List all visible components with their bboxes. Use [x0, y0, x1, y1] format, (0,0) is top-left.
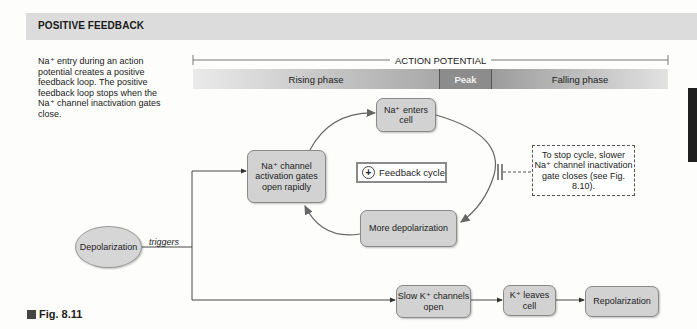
phase-peak: Peak	[439, 69, 492, 89]
stop-cycle-note: To stop cycle, slower Na⁺ channel inacti…	[532, 145, 635, 196]
node-slow-k-channels: Slow K⁺ channels open	[396, 285, 471, 318]
feedback-cycle-label: + Feedback cycle	[356, 162, 447, 183]
node-na-enters-cell: Na⁺ enters cell	[376, 98, 436, 132]
plus-circle-icon: +	[362, 166, 375, 179]
edge-label-triggers: triggers	[149, 237, 179, 247]
figure-caption: Fig. 8.11	[27, 308, 82, 320]
node-na-channel-open: Na⁺ channel activation gates open rapidl…	[247, 150, 326, 203]
node-k-leaves-cell: K⁺ leaves cell	[503, 285, 556, 316]
node-more-depolarization: More depolarization	[360, 210, 457, 247]
phase-falling: Falling phase	[492, 69, 668, 89]
figure-number: Fig. 8.11	[39, 308, 82, 320]
action-potential-label: ACTION POTENTIAL	[390, 55, 491, 66]
page-edge-tab	[688, 88, 697, 162]
phase-rising: Rising phase	[193, 69, 439, 89]
square-bullet-icon	[27, 310, 36, 319]
feedback-cycle-text: Feedback cycle	[379, 167, 445, 178]
node-repolarization: Repolarization	[585, 286, 659, 317]
node-depolarization: Depolarization	[75, 226, 142, 268]
